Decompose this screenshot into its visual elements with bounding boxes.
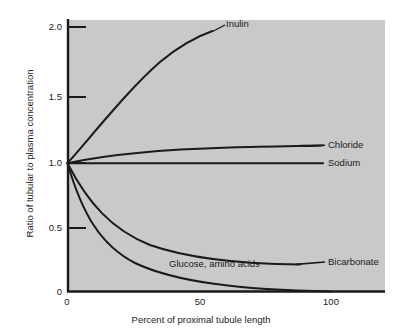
x-tick-label-50: 50 (180, 296, 220, 307)
x-tick-label-0: 0 (47, 296, 87, 307)
curve-label-inulin: Inulin (226, 18, 249, 29)
y-axis-title: Ratio of tubular to plasma concentration (24, 29, 35, 279)
curve-label-chloride: Chloride (328, 139, 363, 150)
x-tick-label-100: 100 (311, 296, 351, 307)
x-axis-title: Percent of proximal tubule length (0, 314, 402, 325)
curve-label-glucose-amino-acids: Glucose, amino acids (169, 258, 260, 269)
chart-figure: 2.0 1.5 1.0 0.5 0 0 50 100 Ratio of tubu… (0, 0, 402, 335)
curve-label-sodium: Sodium (328, 157, 360, 168)
curve-label-bicarbonate: Bicarbonate (328, 256, 379, 267)
